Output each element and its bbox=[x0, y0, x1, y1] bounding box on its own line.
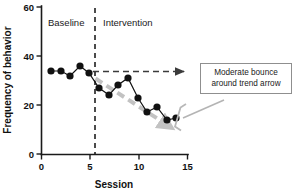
x-tick-label-10: 10 bbox=[134, 161, 145, 172]
y-tick-label-60: 60 bbox=[23, 2, 34, 13]
y-tick-label-20: 20 bbox=[23, 100, 34, 111]
data-point bbox=[153, 103, 160, 110]
data-point bbox=[134, 94, 141, 101]
x-tick-label-0: 0 bbox=[39, 161, 44, 172]
y-tick-label-40: 40 bbox=[23, 51, 34, 62]
y-axis-title: Frequency of behavior bbox=[2, 26, 13, 133]
phase-label-baseline: Baseline bbox=[48, 17, 84, 28]
data-point bbox=[95, 84, 102, 91]
data-point bbox=[57, 67, 64, 74]
data-point bbox=[66, 72, 73, 79]
data-point bbox=[105, 91, 112, 98]
phase-label-intervention: Intervention bbox=[103, 17, 153, 28]
data-point bbox=[143, 108, 150, 115]
data-point bbox=[85, 69, 92, 76]
callout-line-1: Moderate bounce bbox=[214, 68, 278, 77]
single-case-design-chart: 60 40 20 0 0 5 10 15 Session Frequency o… bbox=[0, 0, 295, 193]
x-tick-label-15: 15 bbox=[182, 161, 193, 172]
plot-background bbox=[0, 0, 295, 193]
callout-line-2: around trend arrow bbox=[211, 79, 280, 88]
y-tick-label-0: 0 bbox=[29, 149, 34, 160]
callout-box: Moderate bounce around trend arrow bbox=[201, 64, 292, 94]
data-point bbox=[114, 81, 121, 88]
data-point bbox=[47, 67, 54, 74]
data-point bbox=[76, 62, 83, 69]
x-tick-label-5: 5 bbox=[87, 161, 93, 172]
data-point bbox=[124, 74, 131, 81]
data-point bbox=[163, 116, 170, 123]
x-axis-title: Session bbox=[95, 179, 133, 190]
